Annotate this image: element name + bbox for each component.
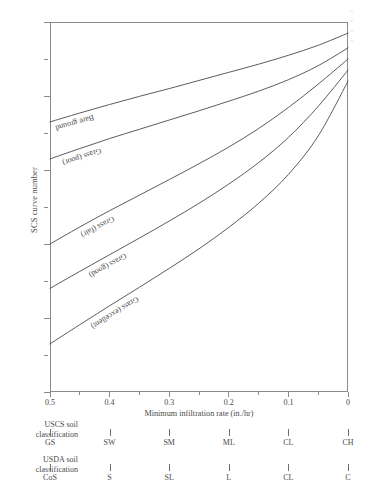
y-tick-mark [44,281,48,282]
classification-label: SL [152,473,186,482]
x-tick-mark [169,392,170,397]
x-tick-mark [258,392,259,395]
classification-tick [50,464,51,471]
x-tick-mark [50,392,51,397]
classification-tick [288,464,289,471]
x-axis-title: Minimum infiltration rate (in./hr) [50,409,348,418]
classification-tick [169,464,170,471]
y-tick-mark [44,59,48,60]
classification-label: CH [331,438,365,447]
classification-tick [169,429,170,436]
classification-label: L [212,473,246,482]
y-tick-mark [44,170,50,171]
classification-label: CL [271,438,305,447]
x-tick-mark [109,392,110,397]
classification-label: SM [152,438,186,447]
y-tick-mark [44,96,50,97]
x-tick-mark [348,392,349,397]
classification-tick [348,429,349,436]
x-tick-label: 0.5 [34,398,66,407]
uscs-title-line1: USCS soil [2,420,78,430]
classification-label: ML [212,438,246,447]
usda-classification-title: USDA soil classification [2,455,78,475]
x-tick-mark [288,392,289,397]
y-tick-mark [44,355,48,356]
classification-label: SW [93,438,127,447]
classification-tick [229,429,230,436]
x-tick-label: 0.2 [213,398,245,407]
classification-tick [229,464,230,471]
classification-tick [50,429,51,436]
scs-curve-number-figure: ≡≡≡≡ 020406080100 SCS curve number 0.50.… [0,0,371,488]
y-axis-title: SCS curve number [29,120,39,280]
classification-tick [110,429,111,436]
usda-title-line1: USDA soil [2,455,78,465]
y-tick-mark [44,207,48,208]
y-tick-mark [44,244,50,245]
classification-label: C [331,473,365,482]
classification-label: GS [33,438,67,447]
curve-grass-good [50,70,348,288]
y-tick-mark [44,22,50,23]
y-tick-mark [44,318,50,319]
uscs-classification-title: USCS soil classification [2,420,78,440]
x-tick-label: 0.3 [153,398,185,407]
classification-tick [348,464,349,471]
x-tick-label: 0.4 [94,398,126,407]
page-bleed-artifact: ≡≡≡≡ [350,6,370,46]
classification-tick [110,464,111,471]
y-tick-mark [44,133,48,134]
curve-bare-ground [50,33,348,122]
x-tick-label: 0.1 [272,398,304,407]
classification-label: CoS [33,473,67,482]
curve-grass-poor [50,48,348,159]
classification-tick [288,429,289,436]
x-tick-mark [318,392,319,395]
x-tick-mark [228,392,229,397]
uscs-classification-row: USCS soil classification GSSWSMMLCLCH [0,420,371,456]
usda-classification-row: USDA soil classification CoSSSLLCLC [0,455,371,488]
x-tick-mark [199,392,200,395]
x-tick-mark [139,392,140,395]
x-tick-mark [79,392,80,395]
x-tick-label: 0 [332,398,364,407]
curve-layer [50,22,348,392]
classification-label: S [93,473,127,482]
classification-label: CL [271,473,305,482]
